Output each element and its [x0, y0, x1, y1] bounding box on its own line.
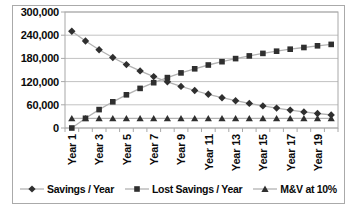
- diamond-marker: [246, 100, 253, 107]
- x-axis-tick-label: Year 19: [312, 134, 324, 171]
- chart-container: 060,000120,000180,000240,000300,000Year …: [0, 0, 351, 213]
- diamond-marker: [259, 102, 266, 109]
- diamond-marker-icon: [20, 184, 44, 194]
- diamond-marker: [177, 83, 184, 90]
- diamond-marker: [123, 61, 130, 68]
- square-marker: [315, 43, 321, 49]
- x-axis-tick-label: Year 9: [175, 134, 187, 165]
- diamond-marker: [273, 104, 280, 111]
- square-marker: [69, 125, 75, 131]
- square-marker: [233, 56, 239, 62]
- x-axis-tick-label: Year 5: [121, 134, 133, 165]
- square-marker: [110, 99, 116, 105]
- diamond-marker: [300, 108, 307, 115]
- y-axis-tick-label: 0: [53, 122, 59, 134]
- legend-item-savings: Savings / Year: [20, 183, 114, 195]
- diamond-marker: [150, 73, 157, 80]
- square-marker: [192, 66, 198, 72]
- x-axis-tick-label: Year 11: [203, 134, 215, 171]
- diamond-marker: [232, 97, 239, 104]
- y-axis-tick-label: 180,000: [21, 52, 59, 64]
- square-marker: [287, 46, 293, 52]
- triangle-marker-icon: [253, 184, 277, 194]
- x-axis-tick-label: Year 13: [230, 134, 242, 171]
- diamond-marker: [218, 94, 225, 101]
- x-axis-tick-label: Year 17: [285, 134, 297, 171]
- square-marker: [137, 86, 143, 92]
- square-marker: [96, 107, 102, 113]
- legend-label-lost-savings: Lost Savings / Year: [152, 183, 242, 195]
- square-marker: [124, 92, 130, 98]
- legend-item-mv: M&V at 10%: [253, 183, 337, 195]
- y-axis-tick-label: 240,000: [21, 29, 59, 41]
- legend-label-savings: Savings / Year: [47, 183, 114, 195]
- diamond-marker: [136, 67, 143, 74]
- square-marker: [274, 48, 280, 54]
- diamond-marker: [205, 91, 212, 98]
- square-marker-icon: [125, 184, 149, 194]
- square-marker: [260, 51, 266, 57]
- x-axis-tick-label: Year 3: [93, 134, 105, 165]
- square-marker: [328, 42, 334, 48]
- legend-label-mv: M&V at 10%: [280, 183, 337, 195]
- chart-legend: Savings / Year Lost Savings / Year M&V a…: [13, 179, 344, 199]
- x-axis-tick-label: Year 15: [257, 134, 269, 171]
- diamond-marker: [287, 106, 294, 113]
- x-axis-tick-label: Year 7: [148, 134, 160, 165]
- y-axis-tick-label: 120,000: [21, 76, 59, 88]
- square-marker: [247, 53, 253, 59]
- square-marker: [219, 59, 225, 65]
- y-axis-tick-label: 300,000: [21, 6, 59, 18]
- diamond-marker: [191, 87, 198, 94]
- square-marker: [206, 62, 212, 68]
- legend-item-lost-savings: Lost Savings / Year: [125, 183, 242, 195]
- square-marker: [165, 75, 171, 81]
- diamond-marker: [109, 54, 116, 61]
- square-marker: [178, 70, 184, 76]
- square-marker: [301, 45, 307, 51]
- x-axis-tick-label: Year 1: [66, 134, 78, 165]
- diamond-marker: [95, 46, 102, 53]
- y-axis-tick-label: 60,000: [27, 99, 60, 111]
- square-marker: [151, 80, 157, 86]
